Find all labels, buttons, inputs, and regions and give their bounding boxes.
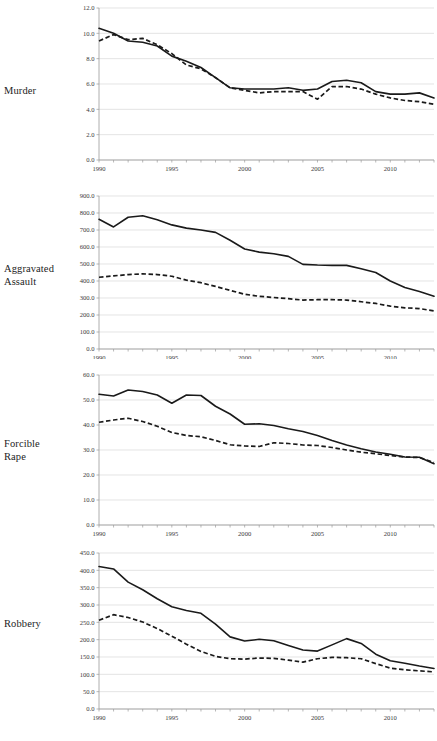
series-line-dashed <box>99 274 434 311</box>
x-tick-label: 2000 <box>238 354 252 360</box>
y-tick-label: 50.0 <box>83 396 95 403</box>
panel-forcible-rape: ForcibleRape 60.050.040.030.020.010.00.0… <box>0 360 437 540</box>
x-tick-label: 2005 <box>311 354 325 360</box>
series-line-dashed <box>99 35 434 105</box>
series-line-solid <box>99 216 434 297</box>
y-tick-label: 20.0 <box>83 471 95 478</box>
y-tick-label: 400.0 <box>80 277 96 284</box>
y-tick-label: 400.0 <box>80 567 96 574</box>
y-tick-label: 0.0 <box>86 156 95 163</box>
x-tick-label: 2005 <box>311 714 325 721</box>
y-tick-label: 0.0 <box>86 705 95 712</box>
y-tick-label: 200.0 <box>80 636 96 643</box>
y-tick-label: 100.0 <box>80 671 96 678</box>
x-tick-label: 1990 <box>92 165 106 172</box>
panel-robbery: Robbery 450.0400.0350.0300.0250.0200.015… <box>0 541 437 741</box>
x-tick-label: 2010 <box>384 530 398 537</box>
y-tick-label: 12.0 <box>83 4 95 11</box>
x-tick-label: 2000 <box>238 714 252 721</box>
y-tick-label: 50.0 <box>83 688 95 695</box>
y-tick-label: 500.0 <box>80 260 96 267</box>
x-tick-label: 2010 <box>384 165 398 172</box>
chart-robbery: 450.0400.0350.0300.0250.0200.0150.0100.0… <box>0 541 437 741</box>
series-line-dashed <box>99 615 434 672</box>
y-tick-label: 150.0 <box>80 653 96 660</box>
y-tick-label: 300.0 <box>80 294 96 301</box>
y-tick-label: 450.0 <box>80 549 96 556</box>
x-tick-label: 2000 <box>238 165 252 172</box>
y-tick-label: 200.0 <box>80 311 96 318</box>
x-tick-label: 1995 <box>165 714 179 721</box>
x-tick-label: 2000 <box>238 530 252 537</box>
series-line-solid <box>99 390 434 464</box>
y-tick-label: 10.0 <box>83 496 95 503</box>
x-tick-label: 2010 <box>384 354 398 360</box>
y-tick-label: 250.0 <box>80 619 96 626</box>
y-tick-label: 6.0 <box>86 80 95 87</box>
y-tick-label: 600.0 <box>80 243 96 250</box>
y-tick-label: 300.0 <box>80 601 96 608</box>
y-tick-label: 100.0 <box>80 328 96 335</box>
x-tick-label: 1990 <box>92 714 106 721</box>
y-tick-label: 900.0 <box>80 192 96 199</box>
x-tick-label: 2010 <box>384 714 398 721</box>
crime-trend-figure: Murder 12.010.08.06.04.02.00.01990199520… <box>0 0 437 741</box>
x-tick-label: 1990 <box>92 530 106 537</box>
panel-aggravated-assault: AggravatedAssault 900.0800.0700.0600.050… <box>0 183 437 359</box>
y-tick-label: 8.0 <box>86 55 95 62</box>
y-tick-label: 30.0 <box>83 446 95 453</box>
x-tick-label: 2005 <box>311 165 325 172</box>
x-tick-label: 1995 <box>165 354 179 360</box>
chart-forcible-rape: 60.050.040.030.020.010.00.01990199520002… <box>0 360 437 540</box>
x-tick-label: 2005 <box>311 530 325 537</box>
y-tick-label: 700.0 <box>80 226 96 233</box>
y-tick-label: 4.0 <box>86 106 95 113</box>
y-tick-label: 800.0 <box>80 209 96 216</box>
x-tick-label: 1995 <box>165 530 179 537</box>
x-tick-label: 1990 <box>92 354 106 360</box>
y-tick-label: 350.0 <box>80 584 96 591</box>
x-tick-label: 1995 <box>165 165 179 172</box>
series-line-solid <box>99 567 434 669</box>
y-tick-label: 0.0 <box>86 521 95 528</box>
series-line-solid <box>99 28 434 98</box>
chart-aggravated-assault: 900.0800.0700.0600.0500.0400.0300.0200.0… <box>0 183 437 359</box>
chart-murder: 12.010.08.06.04.02.00.019901995200020052… <box>0 0 437 182</box>
y-tick-label: 60.0 <box>83 371 95 378</box>
y-tick-label: 0.0 <box>86 345 95 352</box>
y-tick-label: 2.0 <box>86 131 95 138</box>
y-tick-label: 10.0 <box>83 30 95 37</box>
panel-murder: Murder 12.010.08.06.04.02.00.01990199520… <box>0 0 437 182</box>
y-tick-label: 40.0 <box>83 421 95 428</box>
